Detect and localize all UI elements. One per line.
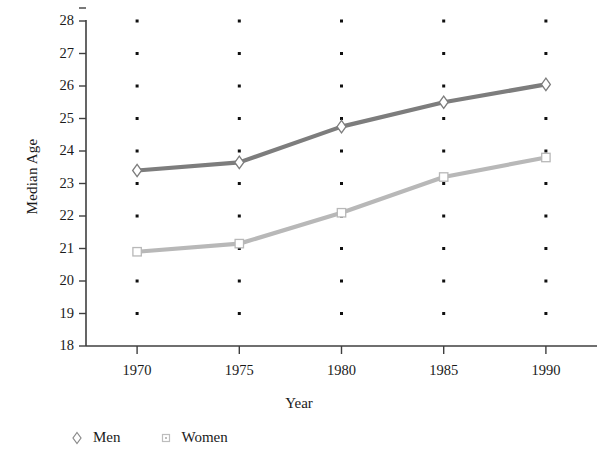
grid-dot: [442, 182, 445, 185]
grid-dot: [442, 215, 445, 218]
data-point-diamond-marker: [439, 96, 448, 108]
legend-label: Women: [182, 430, 228, 445]
grid-dot: [136, 117, 139, 120]
grid-dot: [136, 215, 139, 218]
data-point-square-marker: [133, 248, 141, 256]
grid-dot: [136, 85, 139, 88]
data-point-square-marker: [542, 153, 550, 161]
grid-dot: [544, 182, 547, 185]
square-marker: [159, 431, 173, 445]
series-men: [133, 78, 551, 177]
grid-dot: [238, 215, 241, 218]
grid-dot: [544, 247, 547, 250]
data-point-square-marker: [337, 209, 345, 217]
data-point-diamond-marker: [133, 164, 142, 176]
grid-dot: [442, 117, 445, 120]
grid-dot: [136, 150, 139, 153]
series-women: [133, 153, 550, 256]
grid-dot: [238, 117, 241, 120]
chart-legend: MenWomen: [70, 430, 228, 445]
x-axis-title: Year: [0, 395, 598, 412]
chart-container: Median Age 1819202122232425262728 197019…: [0, 0, 598, 455]
grid-dot: [136, 52, 139, 55]
data-point-square-marker: [440, 173, 448, 181]
series-line: [137, 158, 546, 252]
diamond-glyph: [73, 432, 81, 443]
grid-dot: [442, 85, 445, 88]
grid-dot: [340, 52, 343, 55]
grid-dot: [136, 280, 139, 283]
grid-dot: [340, 150, 343, 153]
data-point-square-marker: [235, 239, 243, 247]
grid-dot: [238, 150, 241, 153]
grid-dot: [544, 280, 547, 283]
diamond-marker: [70, 431, 84, 445]
grid-dot: [544, 20, 547, 23]
legend-item-women[interactable]: Women: [159, 430, 228, 445]
grid-dot: [340, 312, 343, 315]
data-point-diamond-marker: [541, 78, 550, 90]
grid-dot: [442, 52, 445, 55]
data-point-diamond-marker: [235, 156, 244, 168]
grid-dot: [340, 247, 343, 250]
grid-dot: [136, 182, 139, 185]
grid-dot: [136, 312, 139, 315]
grid-dot: [136, 20, 139, 23]
grid-dot: [544, 312, 547, 315]
grid-dot: [340, 85, 343, 88]
grid-dot: [340, 20, 343, 23]
grid-dot: [544, 150, 547, 153]
data-point-diamond-marker: [337, 120, 346, 132]
grid-dot: [442, 312, 445, 315]
plot-area: [0, 0, 598, 455]
grid-dot: [238, 20, 241, 23]
grid-dot: [442, 247, 445, 250]
grid-dot: [238, 52, 241, 55]
legend-item-men[interactable]: Men: [70, 430, 121, 445]
grid-dot: [238, 182, 241, 185]
legend-label: Men: [93, 430, 121, 445]
grid-dot: [340, 280, 343, 283]
grid-dot: [442, 20, 445, 23]
grid-dot: [544, 215, 547, 218]
grid-dot: [238, 280, 241, 283]
grid-dot: [544, 117, 547, 120]
grid-dot: [238, 312, 241, 315]
grid-dot: [340, 182, 343, 185]
grid-dot: [238, 85, 241, 88]
grid-dot: [442, 280, 445, 283]
grid-dot: [442, 150, 445, 153]
square-glyph-center: [165, 437, 167, 439]
grid-dot: [544, 52, 547, 55]
